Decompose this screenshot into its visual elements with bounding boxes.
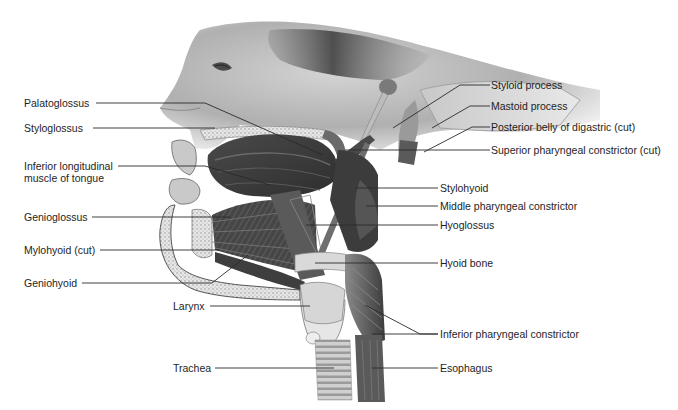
label-posterior-belly-digastric: Posterior belly of digastric (cut): [491, 121, 635, 133]
label-esophagus: Esophagus: [440, 362, 493, 374]
label-styloid-process: Styloid process: [491, 79, 562, 91]
label-stylohyoid: Stylohyoid: [440, 182, 488, 194]
label-middle-pharyngeal-constrictor: Middle pharyngeal constrictor: [440, 200, 577, 212]
label-mastoid-process: Mastoid process: [491, 100, 567, 112]
label-inferior-longitudinal-muscle: Inferior longitudinal muscle of tongue: [24, 160, 124, 184]
label-palatoglossus: Palatoglossus: [24, 97, 89, 109]
label-larynx: Larynx: [173, 300, 205, 312]
label-geniohyoid: Geniohyoid: [24, 277, 77, 289]
label-mylohyoid: Mylohyoid (cut): [24, 244, 95, 256]
label-inferior-pharyngeal-constrictor: Inferior pharyngeal constrictor: [440, 328, 579, 340]
label-trachea: Trachea: [173, 362, 211, 374]
label-hyoglossus: Hyoglossus: [440, 219, 494, 231]
label-superior-pharyngeal-constrictor: Superior pharyngeal constrictor (cut): [491, 144, 661, 156]
anatomy-figure: Palatoglossus Styloglossus Inferior long…: [0, 0, 678, 410]
label-styloglossus: Styloglossus: [24, 122, 83, 134]
label-genioglossus: Genioglossus: [24, 211, 88, 223]
label-hyoid-bone: Hyoid bone: [440, 257, 493, 269]
